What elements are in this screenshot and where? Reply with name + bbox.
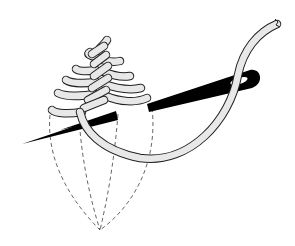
stitch-rows: [52, 40, 147, 113]
illustration-canvas: .thr { fill: none; stroke: #222; stroke-…: [0, 0, 295, 246]
stitch-diagram: .thr { fill: none; stroke: #222; stroke-…: [0, 0, 295, 246]
dashed-guide-lines: [50, 108, 153, 230]
